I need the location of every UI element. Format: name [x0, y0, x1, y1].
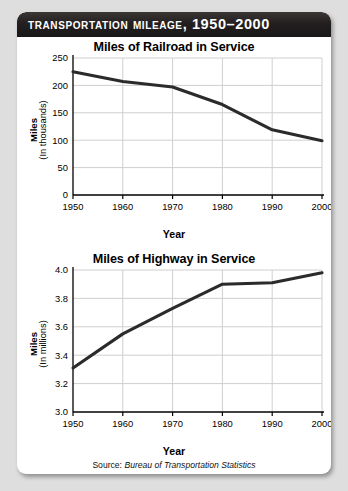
x-tick-label: 2000	[312, 418, 331, 429]
chart-highway-plot: Miles (In millions) 3.03.23.43.63.84.019…	[17, 252, 331, 452]
y-tick-label: 4.0	[55, 264, 68, 275]
y-tick-label: 3.6	[55, 321, 68, 332]
y-tick-label: 3.4	[55, 350, 68, 361]
x-tick-label: 1980	[212, 418, 233, 429]
x-tick-label: 1990	[262, 418, 283, 429]
x-tick-label: 1970	[162, 201, 183, 212]
x-tick-label: 1950	[63, 201, 84, 212]
x-tick-label: 1980	[212, 201, 233, 212]
page-title: Transportation Mileage, 1950–2000	[28, 16, 270, 32]
x-tick-label: 1960	[112, 418, 133, 429]
screenshot-root: Transportation Mileage, 1950–2000 Miles …	[0, 0, 348, 491]
title-banner: Transportation Mileage, 1950–2000	[17, 12, 331, 37]
chart-railroad-svg: 050100150200250195019601970198019902000	[17, 40, 331, 252]
y-tick-label: 250	[52, 52, 68, 63]
x-tick-label: 2000	[312, 201, 331, 212]
x-tick-label: 1960	[112, 201, 133, 212]
y-tick-label: 0	[63, 189, 68, 200]
data-series-line	[73, 72, 322, 141]
chart-highway: Miles of Highway in Service Miles (In mi…	[17, 252, 331, 452]
x-tick-label: 1950	[63, 418, 84, 429]
y-tick-label: 150	[52, 107, 68, 118]
source-note: Source: Bureau of Transportation Statist…	[17, 460, 331, 470]
chart-highway-xlabel: Year	[17, 445, 331, 457]
infographic-card: Transportation Mileage, 1950–2000 Miles …	[17, 12, 331, 474]
chart-highway-svg: 3.03.23.43.63.84.01950196019701980199020…	[17, 252, 331, 452]
x-tick-label: 1990	[262, 201, 283, 212]
y-tick-label: 3.2	[55, 378, 68, 389]
y-tick-label: 50	[58, 162, 68, 173]
y-tick-label: 3.8	[55, 293, 68, 304]
chart-railroad-xlabel: Year	[17, 228, 331, 240]
data-series-line	[73, 273, 322, 368]
source-name: Bureau of Transportation Statistics	[124, 460, 255, 470]
y-tick-label: 200	[52, 80, 68, 91]
y-tick-label: 3.0	[55, 406, 68, 417]
chart-railroad-plot: Miles (In thousands) 0501001502002501950…	[17, 40, 331, 252]
source-prefix: Source:	[92, 460, 122, 470]
chart-railroad: Miles of Railroad in Service Miles (In t…	[17, 40, 331, 252]
y-tick-label: 100	[52, 135, 68, 146]
x-tick-label: 1970	[162, 418, 183, 429]
